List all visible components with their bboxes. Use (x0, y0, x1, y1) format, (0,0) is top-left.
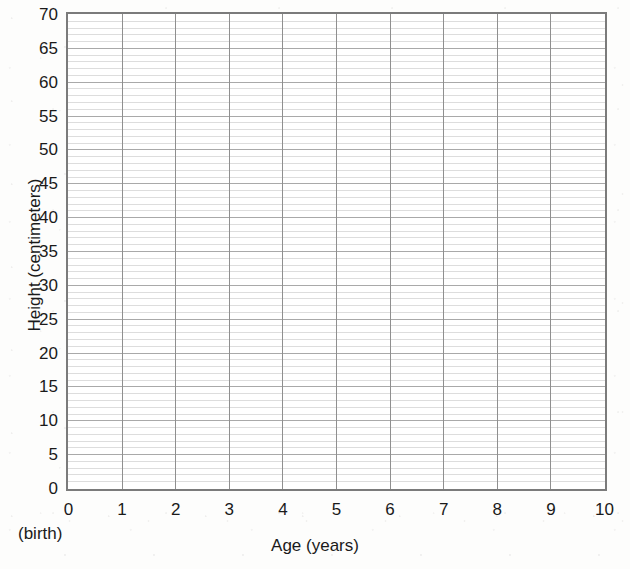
gridline-vertical-major (282, 14, 283, 489)
gridline-horizontal-minor (68, 231, 605, 232)
gridline-horizontal-major (68, 48, 605, 49)
x-axis-tick-label: 6 (370, 501, 410, 518)
gridline-horizontal-major (68, 420, 605, 421)
gridline-horizontal-minor (68, 136, 605, 137)
y-axis-tick-label: 0 (24, 480, 58, 497)
gridline-horizontal-minor (68, 461, 605, 462)
gridline-horizontal-minor (68, 190, 605, 191)
gridline-horizontal-minor (68, 244, 605, 245)
gridline-horizontal-minor (68, 102, 605, 103)
gridline-horizontal-minor (68, 481, 605, 482)
y-axis-tick-label: 60 (24, 74, 58, 91)
x-axis-title: Age (years) (0, 536, 630, 556)
gridline-horizontal-major (68, 217, 605, 218)
x-axis-tick-label: 2 (156, 501, 196, 518)
gridline-horizontal-minor (68, 298, 605, 299)
gridline-horizontal-minor (68, 359, 605, 360)
gridline-horizontal-minor (68, 122, 605, 123)
gridline-horizontal-minor (68, 41, 605, 42)
gridline-vertical-major (550, 14, 551, 489)
gridline-horizontal-minor (68, 325, 605, 326)
gridline-horizontal-minor (68, 237, 605, 238)
gridlines (68, 14, 605, 489)
gridline-horizontal-minor (68, 265, 605, 266)
gridline-horizontal-minor (68, 305, 605, 306)
gridline-horizontal-major (68, 82, 605, 83)
gridline-horizontal-minor (68, 28, 605, 29)
gridline-horizontal-major (68, 353, 605, 354)
x-axis-tick-label: 9 (531, 501, 571, 518)
gridline-horizontal-minor (68, 447, 605, 448)
gridline-horizontal-minor (68, 400, 605, 401)
gridline-horizontal-minor (68, 373, 605, 374)
x-axis-tick-label: 3 (209, 501, 249, 518)
gridline-horizontal-minor (68, 61, 605, 62)
gridline-horizontal-major (68, 319, 605, 320)
gridline-horizontal-minor (68, 278, 605, 279)
gridline-vertical-major (122, 14, 123, 489)
gridline-horizontal-major (68, 285, 605, 286)
gridline-horizontal-minor (68, 332, 605, 333)
gridline-horizontal-minor (68, 21, 605, 22)
y-axis-tick-label: 70 (24, 6, 58, 23)
gridline-vertical-major (336, 14, 337, 489)
y-axis-title: Height (centimeters) (25, 125, 45, 385)
gridline-horizontal-minor (68, 346, 605, 347)
gridline-horizontal-major (68, 454, 605, 455)
gridline-horizontal-minor (68, 312, 605, 313)
gridline-vertical-major (390, 14, 391, 489)
gridline-horizontal-minor (68, 427, 605, 428)
gridline-horizontal-minor (68, 407, 605, 408)
gridline-horizontal-major (68, 149, 605, 150)
gridline-horizontal-minor (68, 204, 605, 205)
gridline-horizontal-major (68, 386, 605, 387)
gridline-horizontal-minor (68, 292, 605, 293)
gridline-horizontal-major (68, 183, 605, 184)
gridline-horizontal-minor (68, 95, 605, 96)
gridline-horizontal-minor (68, 366, 605, 367)
gridline-horizontal-minor (68, 474, 605, 475)
y-axis-tick-label: 5 (24, 446, 58, 463)
gridline-horizontal-minor (68, 271, 605, 272)
gridline-vertical-major (443, 14, 444, 489)
gridline-horizontal-minor (68, 177, 605, 178)
y-axis-tick-label: 55 (24, 108, 58, 125)
gridline-horizontal-minor (68, 339, 605, 340)
gridline-horizontal-minor (68, 210, 605, 211)
gridline-horizontal-minor (68, 163, 605, 164)
gridline-horizontal-minor (68, 34, 605, 35)
plot-area[interactable] (66, 12, 607, 491)
gridline-horizontal-minor (68, 197, 605, 198)
gridline-horizontal-minor (68, 129, 605, 130)
y-axis-tick-label: 10 (24, 412, 58, 429)
y-axis-tick-label: 65 (24, 40, 58, 57)
gridline-horizontal-minor (68, 468, 605, 469)
gridline-vertical-major (497, 14, 498, 489)
gridline-horizontal-minor (68, 434, 605, 435)
x-axis-tick-label: 4 (263, 501, 303, 518)
gridline-horizontal-minor (68, 224, 605, 225)
gridline-horizontal-major (68, 116, 605, 117)
gridline-horizontal-minor (68, 55, 605, 56)
gridline-horizontal-minor (68, 156, 605, 157)
x-axis-tick-labels: 012345678910 (0, 501, 630, 525)
gridline-horizontal-minor (68, 109, 605, 110)
gridline-horizontal-major (68, 251, 605, 252)
x-axis-tick-label: 8 (477, 501, 517, 518)
x-axis-tick-label: 5 (317, 501, 357, 518)
x-axis-tick-label: 1 (102, 501, 142, 518)
gridline-vertical-major (229, 14, 230, 489)
x-axis-tick-label: 10 (585, 501, 625, 518)
gridline-horizontal-minor (68, 380, 605, 381)
gridline-horizontal-minor (68, 170, 605, 171)
gridline-horizontal-minor (68, 393, 605, 394)
gridline-vertical-major (175, 14, 176, 489)
x-axis-tick-label: 0 (49, 501, 89, 518)
gridline-horizontal-minor (68, 441, 605, 442)
x-axis-tick-label: 7 (424, 501, 464, 518)
gridline-horizontal-minor (68, 88, 605, 89)
gridline-horizontal-minor (68, 143, 605, 144)
growth-chart-worksheet: 0510152025303540455055606570 01234567891… (0, 0, 630, 569)
gridline-horizontal-minor (68, 414, 605, 415)
gridline-horizontal-minor (68, 258, 605, 259)
